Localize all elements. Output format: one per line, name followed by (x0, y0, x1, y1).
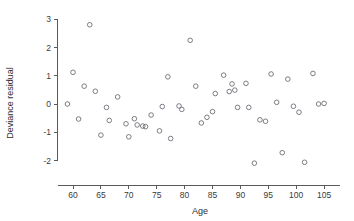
data-point (124, 122, 129, 127)
data-point (65, 102, 70, 107)
x-axis-tick-label: 75 (152, 190, 162, 200)
data-point (210, 109, 215, 114)
x-axis-tick-label: 90 (236, 190, 246, 200)
y-axis-tick-label: 1 (46, 71, 51, 81)
data-point (280, 150, 285, 155)
data-point (143, 124, 148, 129)
data-point (322, 101, 327, 106)
scatter-plot-figure: 3210-1-2 6065707580859095100105 Age Devi… (0, 0, 354, 221)
data-point (168, 136, 173, 141)
data-point (316, 102, 321, 107)
data-point (127, 135, 132, 140)
y-axis-tick-label: -1 (43, 127, 51, 137)
data-point (297, 110, 302, 115)
y-axis-title: Deviance residual (5, 67, 15, 139)
data-point (311, 71, 316, 76)
data-point (286, 77, 291, 82)
plot-canvas: 3210-1-2 6065707580859095100105 Age Devi… (0, 0, 354, 221)
data-point (235, 105, 240, 110)
data-point (193, 84, 198, 89)
data-point (180, 107, 185, 112)
data-point (302, 160, 307, 165)
data-point (166, 75, 171, 80)
data-point (252, 161, 257, 166)
data-point (188, 38, 193, 43)
data-point (263, 119, 268, 124)
x-axis: 6065707580859095100105 (58, 186, 340, 201)
x-axis-tick-label: 80 (180, 190, 190, 200)
data-point (99, 133, 104, 138)
data-point (93, 89, 98, 94)
data-point (87, 22, 92, 27)
x-axis-tick-label: 100 (289, 190, 303, 200)
data-point (82, 84, 87, 89)
data-point (230, 82, 235, 87)
data-point (199, 121, 204, 126)
data-points-layer (65, 22, 326, 165)
data-point (246, 105, 251, 110)
data-point (107, 118, 112, 123)
y-axis-tick-label: 0 (46, 99, 51, 109)
data-point (76, 117, 81, 122)
x-axis-tick-label: 60 (68, 190, 78, 200)
data-point (205, 115, 210, 120)
data-point (104, 105, 109, 110)
data-point (233, 88, 238, 93)
data-point (160, 104, 165, 109)
x-axis-title: Age (192, 206, 208, 216)
data-point (291, 104, 296, 109)
data-point (115, 95, 120, 100)
data-point (269, 72, 274, 77)
x-axis-tick-label: 65 (96, 190, 106, 200)
data-point (149, 113, 154, 118)
data-point (258, 118, 263, 123)
data-point (135, 123, 140, 128)
y-axis-tick-label: 3 (46, 14, 51, 24)
x-axis-tick-label: 95 (264, 190, 274, 200)
data-point (274, 100, 279, 105)
data-point (227, 89, 232, 94)
x-axis-tick-label: 70 (124, 190, 134, 200)
x-axis-tick-label: 85 (208, 190, 218, 200)
data-point (213, 91, 218, 96)
data-point (221, 73, 226, 78)
data-point (157, 129, 162, 134)
y-axis: 3210-1-2 (43, 14, 57, 166)
data-point (71, 70, 76, 75)
y-axis-tick-label: -2 (43, 156, 51, 166)
data-point (244, 81, 249, 86)
data-point (132, 116, 137, 121)
x-axis-tick-label: 105 (317, 190, 331, 200)
y-axis-tick-label: 2 (46, 43, 51, 53)
